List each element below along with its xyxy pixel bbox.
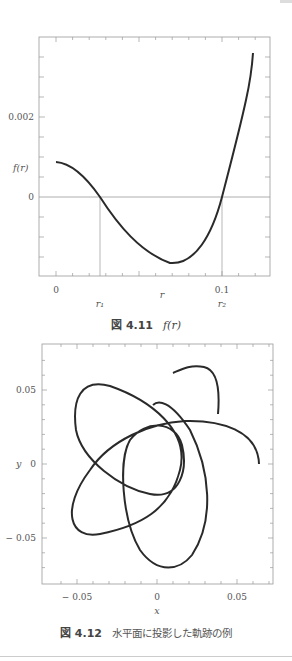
figure1-caption-text: f(r): [163, 319, 181, 332]
figure1-plot: [39, 37, 270, 276]
plot2-xtick-0: 0: [154, 592, 160, 602]
plot1-xtick-0: 0: [53, 285, 59, 295]
plot2-ylabel: y: [15, 458, 22, 469]
figure2-caption-text: 水平面に投影した軌跡の例: [112, 627, 232, 639]
plot2-xlabel: x: [154, 605, 160, 616]
plot1-x-ticks: [56, 37, 255, 276]
figure2-plot: [42, 344, 273, 584]
plot2-ytick-neg0.05: − 0.05: [6, 533, 37, 543]
plot1-ylabel: f(r): [12, 162, 29, 173]
figure1-caption: 図 4.11f(r): [0, 316, 292, 332]
footer-rule: [0, 656, 292, 657]
plot1-r1-label: r₁: [96, 298, 104, 309]
plot1-ytick-0: 0: [28, 192, 34, 202]
figure1-caption-number: 図 4.11: [111, 319, 153, 332]
plot1-frame: [39, 37, 270, 276]
plot2-x-ticks: [61, 344, 269, 584]
figure2-caption-number: 図 4.12: [60, 627, 102, 640]
plot1-ytick-0.002: 0.002: [8, 112, 34, 122]
plot2-frame: [42, 344, 273, 584]
plot2-ytick-0: 0: [30, 459, 36, 469]
plot1-r2-label: r₂: [218, 298, 227, 309]
plot2-xtick-0.05: 0.05: [227, 592, 247, 602]
plot1-curve: [56, 53, 253, 263]
plot1-xlabel: r: [160, 289, 166, 300]
plot2-ytick-0.05: 0.05: [16, 385, 36, 395]
plot2-y-ticks: [42, 360, 273, 567]
figure2-caption: 図 4.12水平面に投影した軌跡の例: [0, 624, 292, 640]
plot2-xtick-neg0.05: − 0.05: [62, 592, 93, 602]
plot1-xtick-0.1: 0.1: [215, 285, 229, 295]
plot1-y-ticks: [39, 57, 270, 257]
plot2-trajectory: [72, 366, 259, 567]
